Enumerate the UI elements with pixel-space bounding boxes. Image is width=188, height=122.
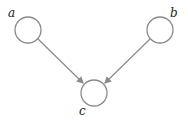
edge-b-to-c bbox=[105, 39, 150, 83]
node-c bbox=[81, 80, 107, 106]
node-c-label: c bbox=[79, 104, 86, 118]
edge-a-to-c bbox=[38, 39, 83, 83]
bayesian-network-diagram: a b c bbox=[0, 0, 188, 122]
node-b-label: b bbox=[170, 6, 178, 20]
node-b bbox=[147, 17, 173, 43]
node-a bbox=[15, 17, 41, 43]
node-a-label: a bbox=[8, 6, 15, 20]
